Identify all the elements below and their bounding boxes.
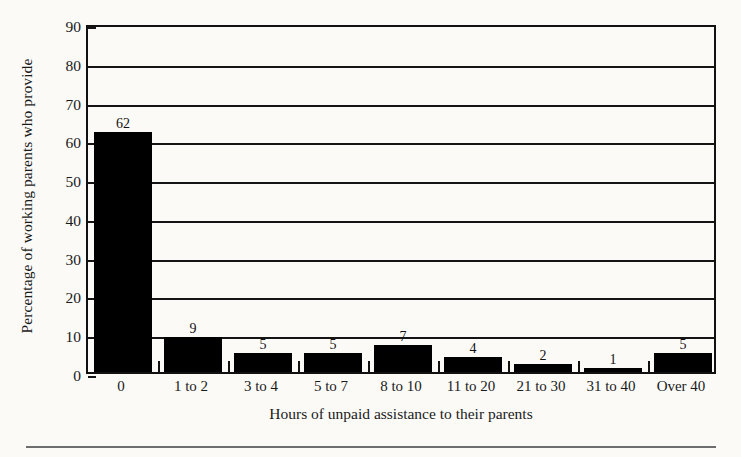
bar[interactable]: 1: [584, 368, 641, 372]
bar-value-label: 9: [189, 322, 196, 336]
bar[interactable]: 7: [374, 345, 431, 372]
bar-value-label: 4: [469, 342, 476, 356]
bar[interactable]: 9: [164, 337, 221, 372]
y-axis-tick-label: 70: [66, 97, 82, 113]
bar[interactable]: 2: [514, 364, 571, 372]
bar[interactable]: 5: [654, 353, 711, 372]
x-axis-category-label: Over 40: [657, 379, 706, 394]
x-axis-category-label: 31 to 40: [586, 379, 635, 394]
y-axis-tick-label: 10: [66, 329, 82, 345]
y-axis-tick-label: 20: [66, 291, 82, 307]
x-axis-category-label: 0: [117, 379, 125, 394]
y-axis-tick-label: 50: [66, 174, 82, 190]
y-axis-tick-label: 0: [73, 368, 81, 384]
chart-page: Percentage of working parents who provid…: [0, 0, 741, 457]
x-axis-category-label: 21 to 30: [516, 379, 565, 394]
bar[interactable]: 4: [444, 357, 501, 373]
bar-value-label: 5: [259, 338, 266, 352]
bar[interactable]: 62: [94, 132, 151, 372]
bar-value-label: 62: [116, 117, 130, 131]
y-axis-title: Percentage of working parents who provid…: [14, 6, 40, 386]
y-axis-tick-label: 60: [66, 136, 82, 152]
y-axis-tick-label: 40: [66, 213, 82, 229]
x-axis-title: Hours of unpaid assistance to their pare…: [86, 405, 716, 423]
bar-value-label: 5: [329, 338, 336, 352]
x-axis-category-label: 11 to 20: [447, 379, 496, 394]
x-axis-category-label: 8 to 10: [380, 379, 422, 394]
y-axis-tick-label: 90: [66, 19, 82, 35]
bar[interactable]: 5: [304, 353, 361, 372]
bar[interactable]: 5: [234, 353, 291, 372]
footer-divider: [26, 446, 716, 448]
y-axis-tick-label: 80: [66, 58, 82, 74]
bar-value-label: 5: [679, 338, 686, 352]
y-axis-tick-label: 30: [66, 252, 82, 268]
bar-value-label: 1: [609, 353, 616, 367]
x-axis-category-label: 1 to 2: [174, 379, 208, 394]
x-axis-category-label: 5 to 7: [314, 379, 348, 394]
bars-layer: 6295574215: [88, 27, 714, 372]
bar-value-label: 2: [539, 349, 546, 363]
y-axis-tick-mark: [88, 376, 96, 378]
plot-area: 0102030405060708090 6295574215: [86, 25, 716, 374]
x-axis-category-label: 3 to 4: [244, 379, 278, 394]
bar-value-label: 7: [399, 330, 406, 344]
